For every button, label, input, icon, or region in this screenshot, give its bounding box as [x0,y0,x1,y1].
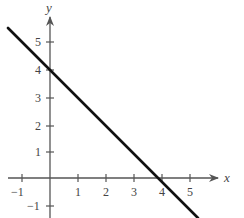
y-tick-label: 4 [35,63,41,77]
x-tick-label: −1 [11,185,24,199]
y-tick-label: 1 [35,145,41,159]
y-tick-label: −1 [27,199,40,213]
x-axis-label: x [223,170,230,185]
x-tick-label: 2 [103,185,109,199]
x-tick-label: 5 [187,185,193,199]
y-tick-label: 3 [35,91,41,105]
coordinate-plane: x y −1 1 2 3 4 5 −1 1 2 3 4 5 [0,0,244,218]
y-tick-label: 5 [35,35,41,49]
y-axis-label: y [44,0,52,15]
x-tick-label: 4 [159,185,165,199]
x-tick-label: 3 [131,185,137,199]
y-tick-label: 2 [35,119,41,133]
x-tick-label: 1 [75,185,81,199]
